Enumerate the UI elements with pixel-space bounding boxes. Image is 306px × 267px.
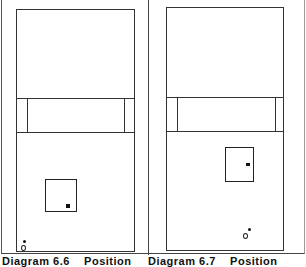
player-circle — [21, 245, 26, 251]
caption-text: Position — [230, 255, 277, 267]
player-dot — [23, 240, 26, 243]
caption-number: Diagram 6.6 — [2, 255, 70, 267]
band-right-line — [275, 97, 276, 132]
caption-text: Position — [84, 255, 131, 267]
band-right-line — [124, 98, 125, 133]
square-marker — [66, 204, 70, 208]
band-left-line — [177, 97, 178, 132]
caption-number: Diagram 6.7 — [148, 255, 216, 267]
player-dot — [248, 228, 251, 231]
court-band — [16, 98, 135, 133]
player-circle — [243, 233, 248, 239]
court-band — [166, 97, 284, 132]
caption-diagram-6-7: Diagram 6.7 Position — [148, 256, 278, 267]
band-left-line — [27, 98, 28, 133]
caption-diagram-6-6: Diagram 6.6 Position — [2, 256, 132, 267]
panel-divider — [148, 0, 149, 255]
square-marker — [246, 163, 250, 166]
target-square — [45, 179, 77, 212]
